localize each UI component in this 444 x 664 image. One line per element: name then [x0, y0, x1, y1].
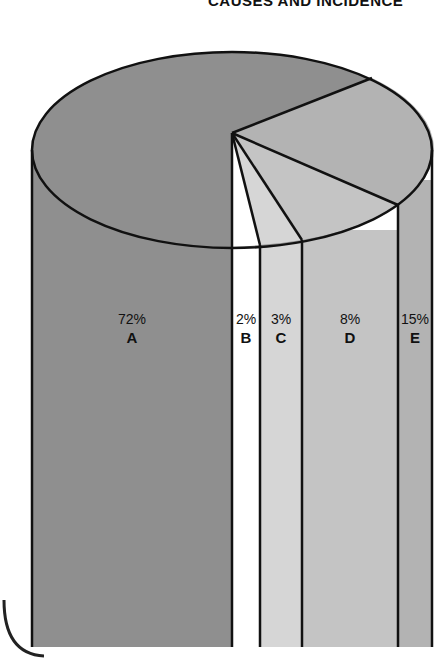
- column-e: [398, 180, 432, 647]
- label-a-value: 72%: [118, 311, 146, 327]
- label-e-value: 15%: [401, 311, 429, 327]
- label-e-category: E: [410, 329, 420, 346]
- label-d-category: D: [345, 329, 356, 346]
- label-b-category: B: [241, 329, 252, 346]
- label-b-value: 2%: [236, 311, 256, 327]
- column-b: [232, 240, 260, 647]
- label-c-value: 3%: [271, 311, 291, 327]
- label-a-category: A: [127, 329, 138, 346]
- column-c: [260, 240, 302, 647]
- label-c-category: C: [276, 329, 287, 346]
- label-d-value: 8%: [340, 311, 360, 327]
- column-d: [302, 230, 398, 647]
- cylinder-pie-chart: 72% A 2% B 3% C 8% D 15% E: [0, 0, 444, 664]
